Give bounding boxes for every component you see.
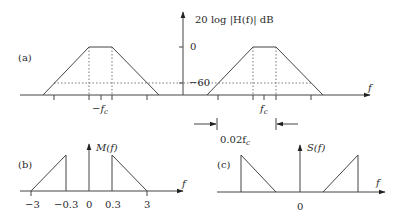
panel-a-left-passband	[43, 47, 159, 95]
panel-a-right-center-label: fc	[259, 103, 268, 116]
panel-a-ytick-0: 0	[190, 41, 196, 52]
panel-c: (c) S(f) f 0	[217, 142, 385, 212]
panel-a-y-axis-label: 20 log |H(f)| dB	[195, 14, 274, 26]
panel-b-x-axis-label: f	[181, 178, 188, 189]
panel-c-label: (c)	[217, 159, 231, 170]
panel-a-left-center-label: −fc	[92, 103, 108, 116]
panel-a-x-axis-label: f	[367, 82, 374, 93]
panel-b-lower-sideband	[31, 155, 66, 191]
panel-b-xtick: −3	[25, 199, 40, 210]
panel-b-label: (b)	[18, 159, 32, 170]
panel-b-xtick: 0	[86, 199, 92, 210]
panel-b-upper-sideband	[112, 155, 147, 191]
panel-a-ytick-minus60: −60	[189, 77, 210, 88]
bandwidth-label: 0.02fc	[220, 134, 250, 147]
panel-a: (a) 20 log |H(f)| dB 0 −60 f −fc fc 0.02…	[18, 12, 374, 147]
panel-c-y-axis-label: S(f)	[307, 142, 325, 153]
panel-b-y-axis-label: M(f)	[95, 142, 118, 153]
panel-b-xtick: 3	[144, 199, 150, 210]
panel-b-xtick: 0.3	[105, 199, 121, 210]
panel-c-left-band	[241, 155, 276, 192]
panel-c-xtick: 0	[297, 201, 303, 212]
panel-c-right-band	[323, 155, 358, 192]
figure-canvas: (a) 20 log |H(f)| dB 0 −60 f −fc fc 0.02…	[0, 0, 399, 223]
panel-a-right-passband	[207, 47, 323, 95]
panel-c-x-axis-label: f	[375, 177, 382, 188]
panel-b-xtick: −0.3	[54, 199, 78, 210]
panel-a-label: (a)	[18, 52, 32, 63]
panel-b: (b) M(f) f −3 −0.3 0 0.3 3	[18, 142, 188, 210]
